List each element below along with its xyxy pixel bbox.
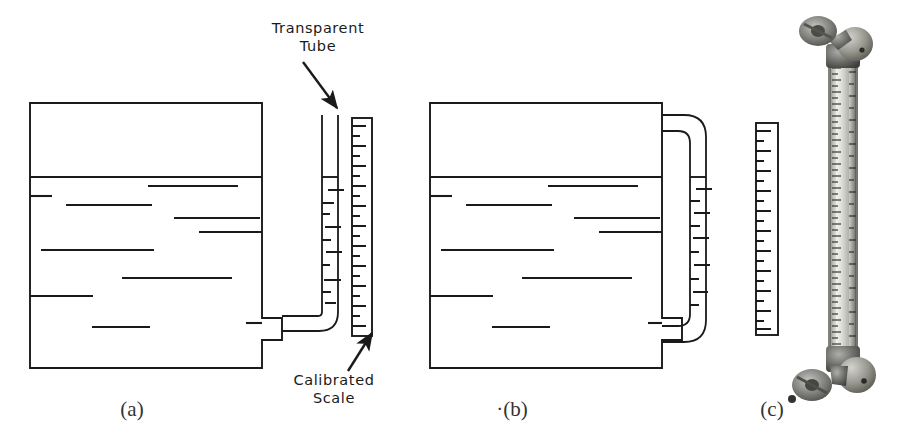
panel-b xyxy=(430,103,778,368)
caption-b: ·(b) xyxy=(496,397,527,421)
transparent-tube-wall-inner-a xyxy=(282,115,322,316)
sight-glass-edge-right xyxy=(855,58,858,354)
calibrated-scale-label-line1: Calibrated xyxy=(294,372,375,388)
liquid-dashes-a xyxy=(30,186,262,327)
calibrated-scale-body-b xyxy=(756,123,778,335)
panel-a xyxy=(30,103,372,368)
annotation-transparent-tube: Transparent Tube xyxy=(271,20,364,108)
transparent-tube-leader-arrow xyxy=(303,62,337,108)
panel-c xyxy=(788,16,876,403)
tube-liquid-dashes-b xyxy=(690,189,712,305)
calibrated-scale-leader-arrow xyxy=(348,333,372,371)
bottom-fitting-corner-bolt xyxy=(788,395,796,403)
bottom-fitting-bolt xyxy=(861,378,867,384)
tube-liquid-dashes-a xyxy=(322,190,344,303)
caption-c: (c) xyxy=(760,397,783,421)
calibrated-scale-ticks-a xyxy=(352,126,366,326)
figure-root: Transparent Tube Calibrated Scale (a) ·(… xyxy=(0,0,906,448)
transparent-tube-wall-outer-b xyxy=(662,115,706,342)
level-gauge-figure: Transparent Tube Calibrated Scale (a) ·(… xyxy=(0,0,906,448)
transparent-tube-label-line2: Tube xyxy=(299,38,336,54)
caption-a: (a) xyxy=(120,397,143,421)
tank-outline-a xyxy=(30,103,282,368)
calibrated-scale-ticks-b xyxy=(756,131,771,329)
transparent-tube-wall-outer-a xyxy=(282,115,338,331)
transparent-tube-label-line1: Transparent xyxy=(271,20,364,36)
transparent-tube-wall-inner-b xyxy=(662,131,690,326)
top-fitting-bolt xyxy=(859,47,864,52)
sight-glass-edge-left xyxy=(828,58,831,354)
liquid-dashes-b xyxy=(430,186,662,327)
tank-outline-b xyxy=(430,103,682,368)
calibrated-scale-label-line2: Scale xyxy=(313,390,355,406)
bottom-fitting-neck xyxy=(830,366,848,386)
annotation-calibrated-scale: Calibrated Scale xyxy=(294,333,375,406)
